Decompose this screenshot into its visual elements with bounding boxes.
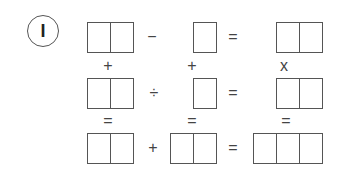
operator-symbol: = [103, 113, 112, 129]
digit-cell[interactable] [171, 134, 194, 163]
answer-box [276, 22, 323, 53]
digit-cell[interactable] [300, 23, 322, 52]
digit-cell[interactable] [88, 134, 111, 163]
digit-cell[interactable] [254, 134, 277, 163]
puzzle-number-label: I [40, 22, 45, 40]
answer-box [87, 133, 134, 164]
operator-symbol: ÷ [150, 85, 159, 101]
digit-cell[interactable] [277, 134, 300, 163]
digit-cell[interactable] [88, 79, 111, 108]
operator-symbol: + [103, 58, 112, 74]
answer-box [193, 78, 217, 109]
operator-symbol: x [280, 58, 288, 74]
digit-cell[interactable] [277, 23, 300, 52]
operator-symbol: = [228, 85, 237, 101]
digit-cell[interactable] [111, 23, 133, 52]
operator-symbol: + [187, 58, 196, 74]
puzzle-number-badge: I [27, 15, 59, 47]
digit-cell[interactable] [300, 134, 322, 163]
answer-box [170, 133, 217, 164]
operator-symbol: = [187, 113, 196, 129]
operator-symbol: = [228, 29, 237, 45]
answer-box [87, 22, 134, 53]
operator-symbol: − [147, 29, 156, 45]
digit-cell[interactable] [300, 79, 322, 108]
digit-cell[interactable] [194, 134, 216, 163]
digit-cell[interactable] [194, 79, 216, 108]
answer-box [276, 78, 323, 109]
digit-cell[interactable] [88, 23, 111, 52]
digit-cell[interactable] [277, 79, 300, 108]
operator-symbol: = [281, 113, 290, 129]
answer-box [193, 22, 217, 53]
digit-cell[interactable] [194, 23, 216, 52]
answer-box [87, 78, 134, 109]
operator-symbol: = [228, 140, 237, 156]
answer-box [253, 133, 323, 164]
operator-symbol: + [148, 140, 157, 156]
digit-cell[interactable] [111, 79, 133, 108]
digit-cell[interactable] [111, 134, 133, 163]
